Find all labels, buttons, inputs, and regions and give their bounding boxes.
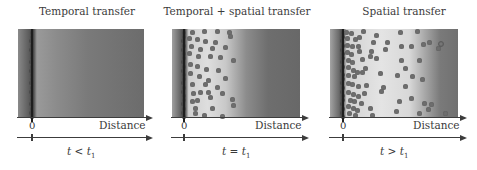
particle: [216, 68, 221, 73]
particle: [415, 29, 420, 34]
particle: [347, 111, 352, 116]
particle: [195, 64, 200, 69]
concentration-field: [18, 29, 144, 117]
time-condition-label: t = t1: [222, 145, 250, 160]
zero-line: [183, 29, 185, 122]
particle: [220, 91, 225, 96]
particle: [397, 99, 402, 104]
particle: [443, 111, 448, 116]
particle: [345, 43, 350, 48]
particle: [346, 73, 351, 78]
particle: [355, 108, 360, 113]
subscript: 1: [246, 152, 250, 160]
particle: [187, 36, 192, 41]
particle: [210, 46, 215, 51]
particle: [203, 82, 208, 87]
distance-label: Distance: [413, 119, 460, 131]
particle: [208, 54, 213, 59]
particle: [398, 30, 403, 35]
particle: [228, 34, 233, 39]
particle: [218, 55, 223, 60]
particle: [350, 60, 355, 65]
particle: [378, 71, 383, 76]
particle: [356, 84, 361, 89]
time-axis-tick: [342, 134, 343, 141]
particle: [369, 49, 374, 54]
particle: [350, 82, 355, 87]
panel-title: Temporal transfer: [7, 5, 167, 17]
zero-label: 0: [29, 120, 35, 131]
particle: [231, 58, 236, 63]
particle: [395, 73, 400, 78]
particle: [379, 89, 384, 94]
particle: [351, 92, 356, 97]
zero-label: 0: [181, 120, 187, 131]
particle: [409, 44, 414, 49]
particle: [346, 65, 351, 70]
particle: [198, 90, 203, 95]
distance-label: Distance: [255, 119, 302, 131]
particle: [345, 36, 350, 41]
particle: [204, 67, 209, 72]
time-axis-arrow-icon: [460, 135, 467, 141]
particle: [399, 44, 404, 49]
particle: [198, 47, 203, 52]
particle-hollow: [438, 41, 444, 47]
distance-axis-arrow-icon: [146, 115, 153, 121]
particle: [357, 35, 362, 40]
particle: [196, 54, 201, 59]
particle: [357, 49, 362, 54]
particle: [360, 57, 365, 62]
particle: [349, 31, 354, 36]
time-axis: [171, 137, 303, 138]
particle: [360, 70, 365, 75]
particle: [213, 40, 218, 45]
particle: [187, 51, 192, 56]
time-axis-arrow-icon: [302, 135, 309, 141]
particle: [356, 94, 361, 99]
particle: [359, 101, 364, 106]
particle: [352, 99, 357, 104]
distance-label: Distance: [99, 119, 146, 131]
particle: [190, 30, 195, 35]
particle: [368, 106, 373, 111]
particle: [361, 29, 366, 34]
particle: [188, 62, 193, 67]
particle: [362, 91, 367, 96]
particle: [417, 58, 422, 63]
time-axis: [17, 137, 147, 138]
particle: [349, 52, 354, 57]
particle: [197, 74, 202, 79]
zero-label: 0: [340, 120, 346, 131]
particle: [374, 56, 379, 61]
distance-axis-arrow-icon: [460, 115, 467, 121]
particle: [364, 83, 369, 88]
particle: [230, 97, 235, 102]
panel-title: Temporal + spatial transfer: [157, 5, 317, 17]
particle: [352, 74, 357, 79]
particle: [195, 98, 200, 103]
particle: [383, 47, 388, 52]
particle: [371, 40, 376, 45]
particle: [385, 40, 390, 45]
particle: [410, 74, 415, 79]
particle: [417, 111, 422, 116]
particle: [190, 99, 195, 104]
particle: [208, 95, 213, 100]
particle: [399, 58, 404, 63]
particle: [191, 91, 196, 96]
particle: [206, 90, 211, 95]
time-axis-tick: [183, 134, 184, 141]
particle: [422, 101, 427, 106]
particle: [409, 96, 414, 101]
particle: [215, 29, 220, 34]
particle: [368, 54, 373, 59]
particle: [223, 76, 228, 81]
particle: [231, 103, 236, 108]
time-axis-tick: [31, 134, 32, 141]
particle: [202, 29, 207, 34]
particle: [193, 111, 198, 116]
particle: [346, 104, 351, 109]
time-condition-label: t > t1: [380, 145, 408, 160]
subscript: 1: [91, 152, 95, 160]
